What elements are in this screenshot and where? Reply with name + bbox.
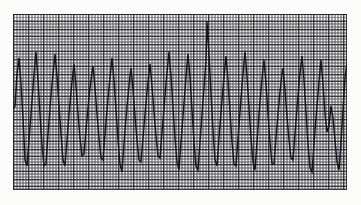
ecg-graph-paper xyxy=(13,14,347,190)
ecg-figure xyxy=(0,0,361,205)
ecg-waveform-path xyxy=(13,22,347,172)
ecg-trace-svg xyxy=(13,14,347,190)
